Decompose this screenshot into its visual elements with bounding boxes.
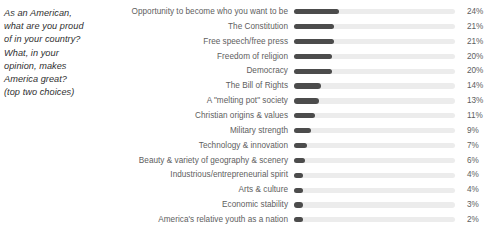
bar-row-label: Industrious/entrepreneurial spirit: [58, 168, 288, 181]
bar-rows: Opportunity to become who you want to be…: [0, 0, 500, 233]
bar-row: Economic stability3%: [0, 198, 500, 211]
bar-track: [294, 39, 455, 44]
bar-row-label: Free speech/free press: [58, 35, 288, 48]
bar-track: [294, 217, 455, 222]
bar-row: Opportunity to become who you want to be…: [0, 5, 500, 18]
bar-fill: [294, 188, 303, 193]
bar-row: Democracy20%: [0, 64, 500, 77]
bar-fill: [294, 83, 321, 88]
bar-row-label: America's relative youth as a nation: [58, 213, 288, 226]
bar-fill: [294, 202, 303, 207]
bar-track: [294, 113, 455, 118]
bar-row-label: Opportunity to become who you want to be: [58, 5, 288, 18]
bar-track: [294, 98, 455, 103]
bar-row-label: Economic stability: [58, 198, 288, 211]
bar-fill: [294, 54, 332, 59]
bar-fill: [294, 9, 339, 14]
bar-row-label: Arts & culture: [58, 183, 288, 196]
bar-row-label: A "melting pot" society: [58, 94, 288, 107]
bar-row: The Bill of Rights14%: [0, 79, 500, 92]
bar-row-value: 21%: [467, 35, 483, 48]
bar-row-value: 21%: [467, 20, 483, 33]
bar-track: [294, 83, 455, 88]
bar-track: [294, 143, 455, 148]
bar-row-label: Beauty & variety of geography & scenery: [58, 154, 288, 167]
bar-track: [294, 54, 455, 59]
bar-fill: [294, 113, 315, 118]
bar-row-value: 7%: [467, 139, 479, 152]
bar-row-value: 13%: [467, 94, 483, 107]
bar-track: [294, 9, 455, 14]
bar-fill: [294, 24, 334, 29]
bar-row: Christian origins & values11%: [0, 109, 500, 122]
bar-row: Arts & culture4%: [0, 183, 500, 196]
bar-fill: [294, 143, 307, 148]
bar-row-value: 4%: [467, 183, 479, 196]
bar-row: Freedom of religion20%: [0, 50, 500, 63]
bar-fill: [294, 128, 311, 133]
bar-row-value: 24%: [467, 5, 483, 18]
bar-row-label: Military strength: [58, 124, 288, 137]
bar-row-label: Democracy: [58, 64, 288, 77]
bar-row-value: 3%: [467, 198, 479, 211]
bar-row-value: 6%: [467, 154, 479, 167]
bar-track: [294, 128, 455, 133]
bar-row-label: Freedom of religion: [58, 50, 288, 63]
bar-row: Military strength9%: [0, 124, 500, 137]
bar-row-label: The Constitution: [58, 20, 288, 33]
bar-fill: [294, 39, 334, 44]
bar-track: [294, 24, 455, 29]
bar-track: [294, 202, 455, 207]
bar-row: Free speech/free press21%: [0, 35, 500, 48]
bar-row-label: The Bill of Rights: [58, 79, 288, 92]
bar-track: [294, 69, 455, 74]
bar-row-label: Christian origins & values: [58, 109, 288, 122]
chart-container: As an American,what are you proudof in y…: [0, 0, 500, 233]
bar-row: A "melting pot" society13%: [0, 94, 500, 107]
bar-row-value: 14%: [467, 79, 483, 92]
bar-row-value: 4%: [467, 168, 479, 181]
bar-track: [294, 158, 455, 163]
bar-row-value: 2%: [467, 213, 479, 226]
bar-track: [294, 188, 455, 193]
bar-row: The Constitution21%: [0, 20, 500, 33]
bar-row: Beauty & variety of geography & scenery6…: [0, 154, 500, 167]
bar-track: [294, 173, 455, 178]
bar-row-value: 20%: [467, 50, 483, 63]
bar-row-label: Technology & innovation: [58, 139, 288, 152]
bar-fill: [294, 173, 303, 178]
bar-row: America's relative youth as a nation2%: [0, 213, 500, 226]
bar-fill: [294, 158, 305, 163]
bar-fill: [294, 217, 303, 222]
bar-row-value: 9%: [467, 124, 479, 137]
bar-row-value: 11%: [467, 109, 483, 122]
bar-fill: [294, 98, 319, 103]
bar-row-value: 20%: [467, 64, 483, 77]
bar-row: Technology & innovation7%: [0, 139, 500, 152]
bar-fill: [294, 69, 332, 74]
bar-row: Industrious/entrepreneurial spirit4%: [0, 168, 500, 181]
